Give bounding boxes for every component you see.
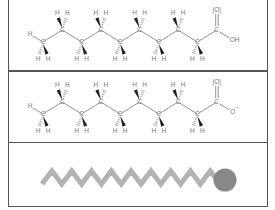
hydrogen-atom: H: [151, 127, 156, 134]
hashed-bond-segment: [156, 119, 158, 120]
hashed-bond-segment: [179, 96, 181, 97]
carbon-atom: C: [156, 110, 161, 117]
wedge-bond: [197, 116, 203, 127]
hashed-bond-segment: [119, 118, 120, 119]
anion-oxygen: O: [230, 108, 235, 115]
hashed-bond-segment: [41, 47, 43, 48]
hashed-bond-segment: [78, 121, 80, 122]
hydrogen-atom: H: [142, 81, 147, 88]
hashed-bond-segment: [42, 118, 43, 119]
hashed-bond-segment: [117, 49, 119, 50]
hashed-bond-segment: [39, 51, 42, 52]
hydrogen-atom: H: [161, 55, 166, 62]
carbon-atom: C: [99, 98, 104, 105]
hashed-bond-segment: [195, 47, 197, 48]
hydrogen-atom: H: [113, 127, 118, 134]
hashed-bond-segment: [115, 124, 118, 125]
carbonyl-oxygen: |O|: [212, 78, 221, 86]
carbon-atom: C: [137, 26, 142, 33]
carbon-atom: C: [118, 38, 123, 45]
hashed-bond-segment: [40, 121, 42, 122]
hashed-bond-segment: [77, 123, 80, 124]
decanoate-anion-structure: HHHHHHHHHHHHHHHHHHHCCCCCCCCCC|O|O−: [9, 72, 269, 144]
hydrogen-atom: H: [94, 81, 99, 88]
hashed-bond-segment: [64, 20, 67, 21]
hashed-bond-segment: [157, 118, 158, 119]
hydrogen-atom: H: [123, 55, 128, 62]
hydrogen-atom: H: [46, 55, 51, 62]
hashed-bond-segment: [63, 96, 65, 97]
hashed-bond-segment: [115, 52, 118, 53]
hashed-bond-segment: [193, 51, 196, 52]
hashed-bond-segment: [180, 18, 183, 19]
hydrogen-atom: H: [104, 9, 109, 16]
hashed-bond-segment: [64, 18, 67, 19]
hydrogen-atom: H: [28, 102, 33, 109]
hydrogen-atom: H: [190, 55, 195, 62]
hashed-bond-segment: [40, 49, 42, 50]
hashed-bond-segment: [103, 90, 106, 91]
hydrogen-atom: H: [123, 127, 128, 134]
hashed-bond-segment: [102, 94, 104, 95]
hashed-bond-segment: [192, 52, 195, 53]
wedge-bond: [82, 116, 88, 127]
hydrogen-atom: H: [36, 127, 41, 134]
hashed-bond-segment: [154, 51, 157, 52]
wedge-bond: [159, 44, 165, 55]
wedge-bond: [120, 116, 126, 127]
hashed-bond-segment: [102, 20, 105, 21]
carbon-atom: C: [156, 38, 161, 45]
hydrogen-atom: H: [190, 127, 195, 134]
hashed-bond-segment: [119, 46, 120, 47]
acid-structure-panel: HHHHHHHHHHHHHHHHHHHCCCCCCCCCC|O|OH: [8, 0, 268, 71]
hydrogen-atom: H: [132, 9, 137, 16]
carbon-atom: C: [79, 110, 84, 117]
hashed-bond-segment: [38, 124, 41, 125]
hashed-bond-segment: [102, 22, 104, 23]
hashed-bond-segment: [180, 20, 183, 21]
hydrogen-atom: H: [74, 55, 79, 62]
hashed-bond-segment: [179, 24, 181, 25]
hydrogen-atom: H: [171, 81, 176, 88]
hashed-bond-segment: [141, 22, 143, 23]
carbon-atom: C: [79, 38, 84, 45]
hashed-bond-segment: [153, 52, 156, 53]
hashed-bond-segment: [195, 119, 197, 120]
hashed-bond-segment: [141, 90, 144, 91]
hashed-bond-segment: [193, 123, 196, 124]
hydrogen-atom: H: [151, 55, 156, 62]
hashed-bond-segment: [41, 119, 43, 120]
hashed-bond-segment: [116, 123, 119, 124]
hydrogen-atom: H: [104, 81, 109, 88]
hydrogen-atom: H: [94, 9, 99, 16]
hydrogen-atom: H: [65, 81, 70, 88]
hydrogen-atom: H: [142, 9, 147, 16]
hashed-bond-segment: [77, 51, 80, 52]
wedge-bond: [159, 116, 165, 127]
hashed-bond-segment: [102, 92, 105, 93]
hashed-bond-segment: [63, 22, 65, 23]
hydrogen-atom: H: [84, 127, 89, 134]
hashed-bond-segment: [155, 49, 157, 50]
carbon-atom: C: [214, 26, 219, 33]
hashed-bond-segment: [117, 121, 119, 122]
hashed-bond-segment: [78, 49, 80, 50]
wedge-bond: [82, 44, 88, 55]
hydroxyl-group: OH: [230, 36, 240, 43]
carbonyl-oxygen: |O|: [212, 6, 221, 14]
hashed-bond-segment: [101, 24, 103, 25]
wedge-bond: [43, 116, 49, 127]
carbon-atom: C: [214, 98, 219, 105]
hashed-bond-segment: [76, 124, 79, 125]
hashed-bond-segment: [101, 96, 103, 97]
schematic-panel: [8, 143, 268, 207]
hashed-bond-segment: [116, 51, 119, 52]
hashed-bond-segment: [194, 121, 196, 122]
hashed-bond-segment: [141, 18, 144, 19]
carbon-atom: C: [195, 110, 200, 117]
hashed-bond-segment: [76, 52, 79, 53]
hashed-bond-segment: [141, 94, 143, 95]
hydrogen-atom: H: [200, 55, 205, 62]
hashed-bond-segment: [153, 124, 156, 125]
hashed-bond-segment: [79, 119, 81, 120]
